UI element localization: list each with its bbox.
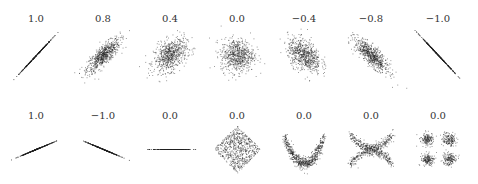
scatter-point <box>282 139 283 140</box>
scatter-point <box>294 53 295 54</box>
scatter-point <box>239 49 240 50</box>
scatter-point <box>164 61 165 62</box>
scatter-point <box>420 36 421 37</box>
scatter-point <box>358 141 359 142</box>
scatter-point <box>362 43 363 44</box>
scatter-point <box>223 57 224 58</box>
scatter-point <box>294 61 295 62</box>
scatter-point <box>380 146 381 147</box>
scatter-point <box>445 63 446 64</box>
scatter-point <box>162 68 163 69</box>
scatter-point <box>302 165 303 166</box>
scatter-point <box>304 45 305 46</box>
scatter-point <box>293 150 294 151</box>
scatter-point <box>357 155 358 156</box>
scatter-point <box>306 41 307 42</box>
scatter-point <box>451 143 452 144</box>
scatter-point <box>49 41 50 42</box>
scatter-point <box>352 160 353 161</box>
scatter-point <box>229 48 230 49</box>
scatter-point <box>380 51 381 52</box>
correlation-label: 0.4 <box>162 13 178 24</box>
scatter-point <box>359 152 360 153</box>
scatter-point <box>366 153 367 154</box>
scatter-point <box>452 132 453 133</box>
scatter-point <box>193 54 194 55</box>
scatter-point <box>168 45 169 46</box>
scatter-point <box>239 148 240 149</box>
scatter-point <box>375 47 376 48</box>
scatter-point <box>104 54 105 55</box>
scatter-point <box>446 149 447 150</box>
scatter-point <box>112 38 113 39</box>
scatter-point <box>233 157 234 158</box>
scatter-point <box>324 61 325 62</box>
scatter-point <box>220 51 221 52</box>
scatter-point <box>188 56 189 57</box>
scatter-point <box>222 52 223 53</box>
scatter-point <box>154 52 155 53</box>
scatter-point <box>239 129 240 130</box>
scatter-point <box>383 141 384 142</box>
scatter-point <box>250 147 251 148</box>
scatter-point <box>432 163 433 164</box>
scatter-point <box>375 59 376 60</box>
scatter-point <box>297 166 298 167</box>
scatter-point <box>455 145 456 146</box>
scatter-point <box>375 145 376 146</box>
scatter-point <box>179 149 180 150</box>
scatter-point <box>373 154 374 155</box>
scatter-point <box>385 141 386 142</box>
scatter-point <box>324 72 325 73</box>
scatter-point <box>101 55 102 56</box>
scatter-point <box>159 57 160 58</box>
scatter-point <box>194 48 195 49</box>
scatter-point <box>416 146 417 147</box>
scatter-point <box>119 47 120 48</box>
scatter-point <box>27 65 28 66</box>
scatter-point <box>371 52 372 53</box>
scatter-point <box>170 60 171 61</box>
scatter-point <box>299 60 300 61</box>
scatter-point <box>309 164 310 165</box>
scatter-point <box>244 57 245 58</box>
scatter-point <box>378 148 379 149</box>
scatter-point <box>375 49 376 50</box>
scatter-point <box>302 54 303 55</box>
scatter-point <box>315 150 316 151</box>
scatter-point <box>353 54 354 55</box>
scatter-point <box>178 45 179 46</box>
scatter-point <box>243 148 244 149</box>
scatter-point <box>160 69 161 70</box>
scatter-point <box>225 147 226 148</box>
scatter-point <box>308 69 309 70</box>
scatter-point <box>93 65 94 66</box>
scatter-point <box>96 63 97 64</box>
scatter-point <box>98 50 99 51</box>
scatter-point <box>169 55 170 56</box>
scatter-point <box>165 43 166 44</box>
scatter-point <box>356 160 357 161</box>
scatter-point <box>294 166 295 167</box>
scatter-point <box>164 52 165 53</box>
scatter-point <box>380 157 381 158</box>
scatter-point <box>432 135 433 136</box>
scatter-point <box>459 78 460 79</box>
scatter-point <box>240 60 241 61</box>
scatter-point <box>310 61 311 62</box>
scatter-point <box>231 64 232 65</box>
scatter-point <box>295 151 296 152</box>
scatter-point <box>172 149 173 150</box>
scatter-point <box>153 51 154 52</box>
scatter-point <box>251 154 252 155</box>
correlation-label: 0.0 <box>162 110 178 121</box>
scatter-point <box>226 162 227 163</box>
scatter-point <box>300 158 301 159</box>
scatter-point <box>283 136 284 137</box>
scatter-point <box>350 162 351 163</box>
scatter-point <box>87 77 88 78</box>
scatter-point <box>293 144 294 145</box>
scatter-point <box>157 59 158 60</box>
scatter-point <box>237 150 238 151</box>
scatter-point <box>280 52 281 53</box>
